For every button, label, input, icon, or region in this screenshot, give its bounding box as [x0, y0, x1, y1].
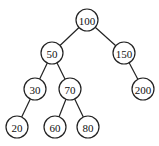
- tree-edge: [60, 28, 79, 46]
- tree-edge: [75, 99, 84, 117]
- node-label: 200: [135, 84, 152, 96]
- tree-node-60: 60: [44, 116, 66, 138]
- tree-edge: [40, 63, 48, 79]
- tree-node-150: 150: [113, 42, 135, 64]
- tree-node-30: 30: [24, 78, 46, 100]
- node-label: 50: [47, 48, 59, 60]
- binary-tree-diagram: 100501503070200206080: [0, 0, 159, 146]
- node-label: 70: [65, 84, 77, 96]
- tree-edge: [59, 99, 66, 117]
- node-label: 20: [12, 122, 24, 134]
- node-label: 100: [79, 15, 96, 27]
- tree-node-50: 50: [41, 42, 63, 64]
- tree-node-70: 70: [59, 78, 81, 100]
- tree-edge: [22, 99, 31, 117]
- node-label: 30: [30, 84, 42, 96]
- node-label: 150: [116, 48, 133, 60]
- tree-node-200: 200: [132, 78, 154, 100]
- tree-edge: [57, 63, 65, 79]
- tree-edge: [95, 27, 116, 45]
- tree-node-20: 20: [6, 116, 28, 138]
- tree-nodes: 100501503070200206080: [6, 9, 154, 138]
- node-label: 60: [50, 122, 62, 134]
- tree-node-80: 80: [77, 116, 99, 138]
- node-label: 80: [83, 122, 95, 134]
- tree-node-100: 100: [76, 9, 98, 31]
- tree-edge: [129, 63, 138, 80]
- tree-edges: [22, 27, 138, 117]
